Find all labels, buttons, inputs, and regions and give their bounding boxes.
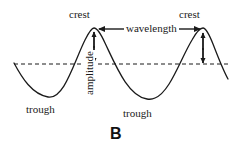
amplitude-label: amplitude	[84, 50, 95, 96]
crest-left-label: crest	[69, 9, 90, 20]
wave-diagram: crest crest trough trough wavelength amp…	[0, 0, 236, 151]
trough-right-label: trough	[123, 108, 152, 119]
crest-right-label: crest	[179, 9, 200, 20]
figure-caption: B	[110, 126, 122, 142]
wavelength-label: wavelength	[124, 23, 179, 34]
trough-left-label: trough	[26, 104, 55, 115]
